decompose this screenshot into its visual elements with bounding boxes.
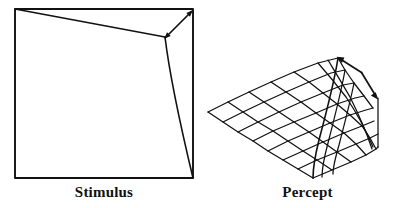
figure-container: Stimulus Percept — [0, 0, 399, 208]
mesh-ridge-curve-inner-2 — [333, 83, 354, 174]
percept-mesh — [208, 58, 378, 178]
stimulus-angle-arrow-shaft — [166, 12, 192, 38]
stimulus-fold-line-lower — [165, 37, 193, 178]
mesh-line-h-6 — [298, 134, 378, 169]
stimulus-caption: Stimulus — [0, 183, 208, 201]
mesh-line-h-3 — [253, 96, 364, 141]
percept-arrow-shaft-lower — [362, 73, 376, 96]
percept-arrow-head-lower — [371, 92, 379, 100]
stimulus-panel — [15, 9, 193, 178]
figure-illustration — [0, 0, 399, 208]
mesh-line-h-0 — [208, 58, 338, 112]
stimulus-fold-line — [15, 9, 165, 37]
mesh-ridge-curve-inner — [322, 70, 345, 177]
percept-panel — [208, 57, 378, 178]
percept-caption: Percept — [216, 183, 399, 201]
stimulus-angle-arrow-group — [164, 10, 193, 39]
mesh-line-v-0 — [208, 112, 313, 178]
